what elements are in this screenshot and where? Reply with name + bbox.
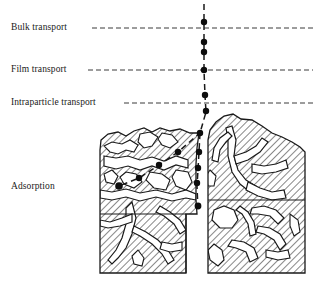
dot-film-2: [202, 92, 208, 98]
label-intraparticle-transport: Intraparticle transport: [11, 97, 96, 107]
particle-left-half: [95, 108, 210, 280]
adsorbate-trajectory: [197, 4, 206, 210]
dot-intraparticle-3: [196, 149, 202, 155]
dot-intraparticle-1: [203, 108, 209, 114]
label-film-transport: Film transport: [11, 64, 67, 74]
dot-intraparticle-2: [197, 130, 203, 136]
dot-adsorption-2: [156, 162, 162, 168]
dot-bulk-3: [201, 49, 207, 55]
label-adsorption: Adsorption: [11, 181, 55, 191]
dot-adsorption-3: [136, 175, 142, 181]
diagram-canvas: [0, 0, 315, 286]
adsorption-transport-diagram: Bulk transport Film transport Intraparti…: [0, 0, 315, 286]
dot-adsorption-1: [175, 149, 181, 155]
boundary-lines: [88, 28, 313, 103]
dot-adsorption-4: [115, 182, 123, 190]
label-bulk-transport: Bulk transport: [11, 22, 67, 32]
dot-intraparticle-6: [195, 203, 202, 210]
dot-intraparticle-4: [195, 165, 201, 171]
dot-film-1: [201, 67, 207, 73]
dot-bulk-2: [201, 39, 207, 45]
particle-right-half: [204, 108, 310, 280]
dot-intraparticle-5: [194, 180, 200, 186]
dot-bulk-1: [201, 19, 207, 25]
